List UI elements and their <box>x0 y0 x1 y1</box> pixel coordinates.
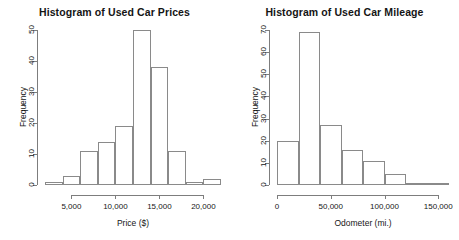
x-axis-tick <box>71 195 72 199</box>
histogram-bar <box>133 30 151 185</box>
x-axis-title: Price ($) <box>117 218 149 228</box>
chart-panel-mileage: Histogram of Used Car Mileage 0102030405… <box>230 0 459 240</box>
x-axis-tick <box>203 195 204 199</box>
histogram-bar <box>115 126 133 185</box>
histogram-bar <box>428 183 450 185</box>
x-axis-tick <box>115 195 116 199</box>
plot-area-mileage <box>277 30 449 185</box>
y-axis-title: Frequency <box>18 67 28 147</box>
plot-area-prices <box>45 30 221 185</box>
histogram-bar <box>63 176 81 185</box>
histogram-bar <box>203 179 221 185</box>
histogram-bar <box>151 67 169 185</box>
histogram-bar <box>363 161 385 185</box>
x-axis-tick <box>385 195 386 199</box>
y-axis-tick-label: 50 <box>27 22 36 38</box>
y-axis-tick-label: 70 <box>259 22 268 38</box>
histogram-bar <box>406 183 428 185</box>
x-axis-title: Odometer (mi.) <box>334 218 391 228</box>
y-axis-tick-label: 0 <box>259 177 268 193</box>
histogram-bar <box>186 182 204 185</box>
x-axis-line <box>71 195 203 196</box>
histogram-bar <box>168 151 186 185</box>
histogram-bar <box>98 142 116 185</box>
x-axis-tick-label: 100,000 <box>370 202 399 211</box>
x-axis-tick <box>277 195 278 199</box>
x-axis-tick-label: 20,000 <box>191 202 215 211</box>
x-axis-tick-label: 150,000 <box>424 202 453 211</box>
y-axis-tick-label: 10 <box>27 146 36 162</box>
x-axis-tick-label: 15,000 <box>147 202 171 211</box>
x-axis-tick-label: 10,000 <box>103 202 127 211</box>
chart-title-mileage: Histogram of Used Car Mileage <box>230 6 459 18</box>
y-axis-line <box>269 30 270 185</box>
y-axis-tick-label: 10 <box>259 154 268 170</box>
y-axis-tick-label: 60 <box>259 44 268 60</box>
x-axis-tick-label: 5,000 <box>61 202 81 211</box>
x-axis-tick <box>331 195 332 199</box>
histogram-bar <box>385 174 407 185</box>
x-axis-line <box>277 195 438 196</box>
y-axis-tick-label: 0 <box>27 177 36 193</box>
chart-title-prices: Histogram of Used Car Prices <box>0 6 229 18</box>
histogram-bar <box>299 32 321 185</box>
histogram-bar <box>320 125 342 185</box>
histogram-bar <box>45 182 63 185</box>
histogram-bar <box>80 151 98 185</box>
y-axis-line <box>37 30 38 185</box>
x-axis-tick <box>159 195 160 199</box>
x-axis-tick <box>438 195 439 199</box>
histogram-bar <box>277 141 299 185</box>
x-axis-tick-label: 50,000 <box>319 202 343 211</box>
y-axis-title: Frequency <box>250 67 260 147</box>
x-axis-tick-label: 0 <box>275 202 279 211</box>
histogram-bar <box>342 150 364 185</box>
figure-canvas: Histogram of Used Car Prices 01020304050… <box>0 0 459 240</box>
chart-panel-prices: Histogram of Used Car Prices 01020304050… <box>0 0 229 240</box>
